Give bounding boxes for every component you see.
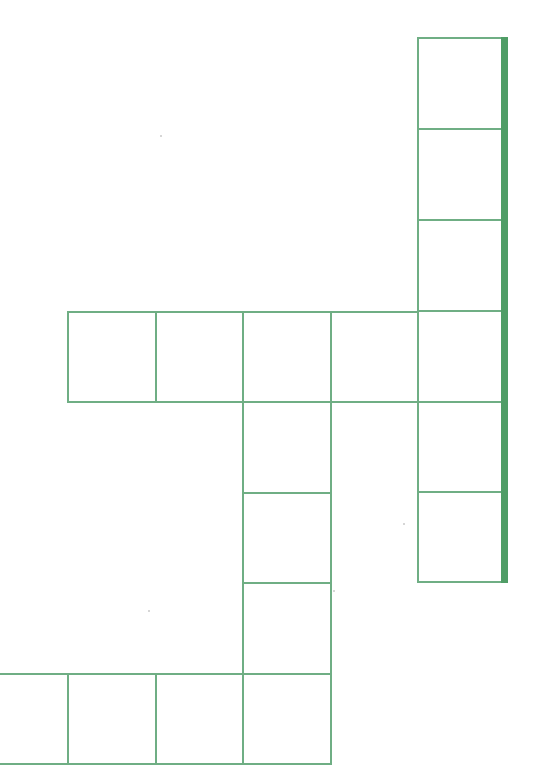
- crossword-cell[interactable]: [330, 311, 419, 403]
- paper-speck: [148, 610, 150, 612]
- crossword-cell[interactable]: [242, 582, 332, 675]
- paper-speck: [160, 135, 162, 137]
- crossword-cell[interactable]: [417, 37, 503, 130]
- crossword-cell[interactable]: [242, 673, 332, 765]
- paper-speck: [333, 590, 335, 592]
- crossword-cell[interactable]: [242, 401, 332, 494]
- grid-accent-edge: [501, 37, 508, 583]
- crossword-cell[interactable]: [67, 311, 157, 403]
- crossword-cell[interactable]: [417, 128, 503, 221]
- crossword-cell[interactable]: [242, 492, 332, 585]
- crossword-cell[interactable]: [155, 673, 244, 765]
- crossword-cell[interactable]: [417, 491, 503, 583]
- crossword-cell[interactable]: [67, 673, 157, 765]
- crossword-cell[interactable]: [417, 401, 503, 494]
- crossword-cell[interactable]: [0, 673, 69, 765]
- crossword-cell[interactable]: [242, 311, 332, 403]
- crossword-cell[interactable]: [155, 311, 244, 403]
- crossword-cell[interactable]: [417, 219, 503, 312]
- crossword-cell[interactable]: [417, 310, 503, 403]
- paper-speck: [403, 523, 405, 525]
